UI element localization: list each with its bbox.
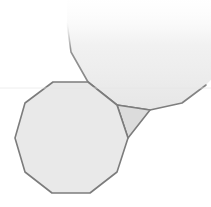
tiling-diagram: [0, 0, 211, 207]
